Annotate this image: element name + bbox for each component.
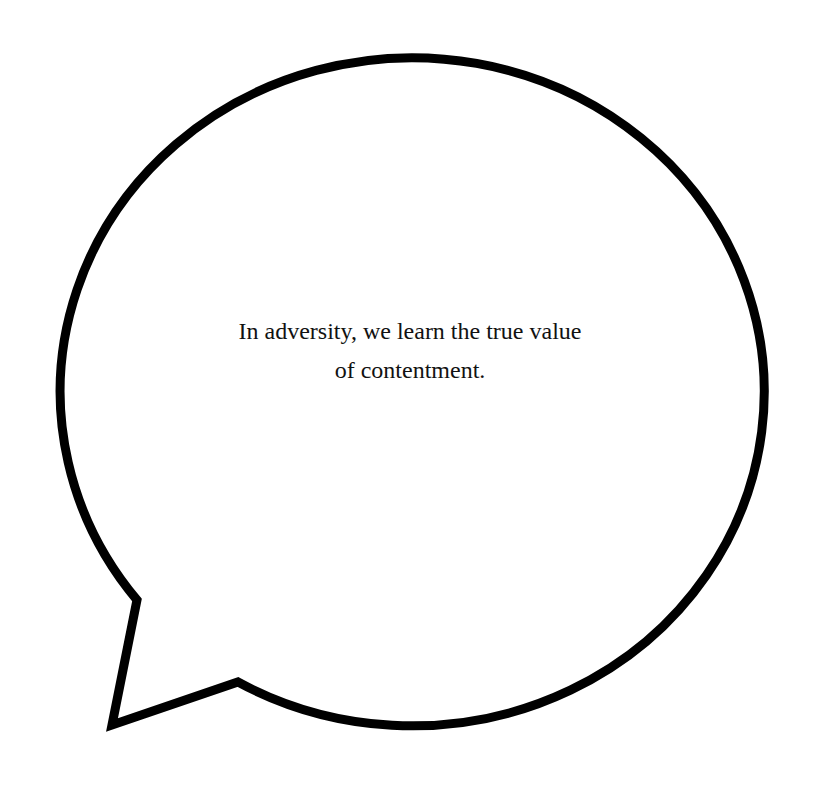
speech-bubble-outline — [60, 58, 764, 726]
speech-line-1: In adversity, we learn the true value — [160, 312, 660, 351]
speech-bubble-text: In adversity, we learn the true value of… — [160, 312, 660, 390]
speech-bubble — [0, 0, 814, 786]
speech-line-2: of contentment. — [160, 351, 660, 390]
